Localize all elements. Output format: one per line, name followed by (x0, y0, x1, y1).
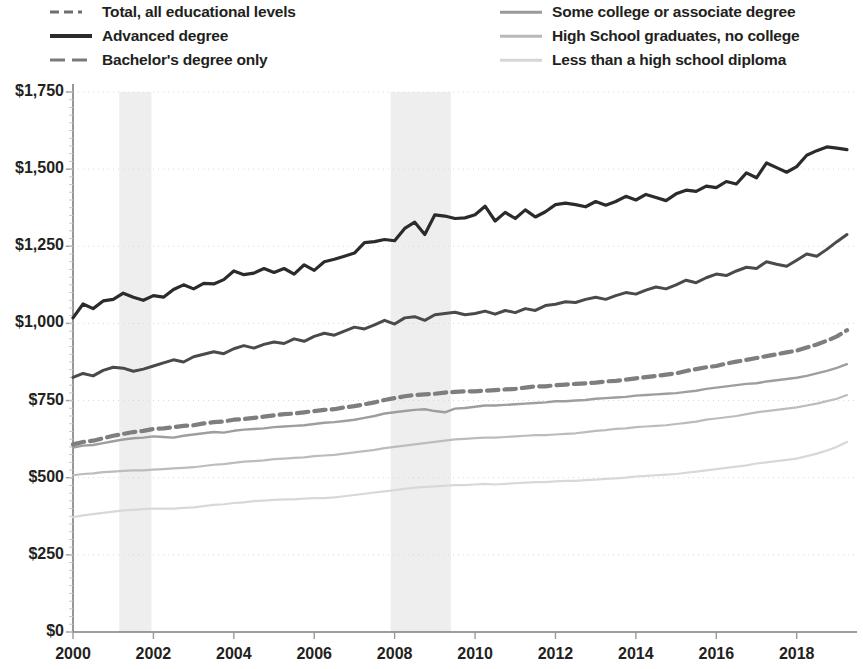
y-axis-tick-label: $1,750 (0, 83, 64, 99)
x-axis-tick-label: 2016 (681, 646, 751, 662)
recession-band (119, 92, 151, 632)
x-axis-tick-label: 2000 (38, 646, 108, 662)
data-series-line (73, 442, 847, 517)
data-series-line (73, 364, 847, 447)
data-series-line (73, 235, 847, 378)
data-series-line (73, 147, 847, 318)
x-axis-tick-label: 2006 (279, 646, 349, 662)
y-axis-tick-label: $1,250 (0, 237, 64, 253)
x-axis-tick-label: 2018 (762, 646, 832, 662)
x-axis-tick-label: 2012 (520, 646, 590, 662)
x-axis-tick-label: 2014 (601, 646, 671, 662)
data-series-line (73, 330, 847, 444)
chart-plot-svg (0, 0, 863, 669)
y-axis-tick-label: $500 (0, 469, 64, 485)
x-axis-tick-label: 2008 (360, 646, 430, 662)
y-axis-tick-label: $1,000 (0, 314, 64, 330)
data-series-group (73, 147, 847, 517)
line-chart: $0$250$500$750$1,000$1,250$1,500$1,750 2… (0, 0, 863, 669)
x-axis-tick-label: 2002 (118, 646, 188, 662)
recession-band (391, 92, 451, 632)
y-axis-tick-label: $0 (0, 623, 64, 639)
y-axis-tick-label: $750 (0, 392, 64, 408)
x-axis-tick-label: 2010 (440, 646, 510, 662)
y-axis-tick-label: $1,500 (0, 160, 64, 176)
y-axis-tick-label: $250 (0, 546, 64, 562)
x-axis-tick-label: 2004 (199, 646, 269, 662)
